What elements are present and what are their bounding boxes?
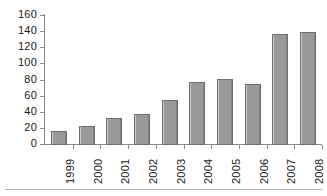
bar-chart: 020406080100120140160 199920002001200220…: [0, 0, 327, 196]
bar: [217, 79, 233, 145]
x-axis-tick-mark: [128, 145, 129, 149]
y-axis-tick-mark: [40, 15, 44, 16]
x-axis-tick-mark: [184, 145, 185, 149]
bar: [106, 118, 122, 145]
bar: [245, 84, 261, 145]
y-axis-tick-mark: [40, 80, 44, 81]
y-axis-tick-label: 0: [31, 137, 37, 150]
x-axis-tick-mark: [322, 145, 323, 149]
y-axis-tick-label: 20: [24, 121, 37, 134]
x-axis-tick-label: 2000: [92, 159, 104, 184]
bar: [272, 34, 288, 145]
x-axis-tick-label: 2006: [258, 159, 270, 184]
y-axis-tick-mark: [40, 144, 44, 145]
x-axis-tick-mark: [211, 145, 212, 149]
bar: [79, 126, 95, 145]
x-axis-tick-label: 2004: [202, 159, 214, 184]
bar-slot: [51, 15, 67, 145]
x-axis-label-group: 1999200020012002200320042005200620072008: [45, 150, 322, 186]
bar-slot: [245, 15, 261, 145]
y-axis-tick-label: 160: [18, 8, 37, 21]
bar: [51, 131, 67, 146]
bar: [300, 32, 316, 145]
x-axis-tick-label: 1999: [64, 159, 76, 184]
bar: [134, 114, 150, 145]
y-axis-tick-label: 40: [24, 105, 37, 118]
y-axis-tick-label: 80: [24, 73, 37, 86]
x-axis-tick-label: 2007: [285, 159, 297, 184]
bar-slot: [162, 15, 178, 145]
x-axis-tick-mark: [100, 145, 101, 149]
y-axis-tick-mark: [40, 63, 44, 64]
bar: [162, 100, 178, 145]
bar-slot: [79, 15, 95, 145]
x-axis-tick-label: 2001: [119, 159, 131, 184]
y-axis-tick-mark: [40, 47, 44, 48]
x-axis-tick-label: 2008: [313, 159, 325, 184]
bar-slot: [300, 15, 316, 145]
x-axis-tick-mark: [156, 145, 157, 149]
y-axis-tick-label: 60: [24, 89, 37, 102]
bar-slot: [272, 15, 288, 145]
bar: [189, 82, 205, 145]
y-axis-tick-mark: [40, 112, 44, 113]
x-axis-tick-label: 2005: [230, 159, 242, 184]
bar-slot: [106, 15, 122, 145]
y-axis-tick-mark: [40, 96, 44, 97]
y-axis-tick-label: 100: [18, 56, 37, 69]
x-axis-tick-label: 2002: [147, 159, 159, 184]
y-axis-tick-mark: [40, 128, 44, 129]
y-axis-tick-mark: [40, 31, 44, 32]
bar-series: [45, 15, 322, 145]
y-axis-tick-label: 140: [18, 24, 37, 37]
x-axis-tick-mark: [239, 145, 240, 149]
bar-slot: [189, 15, 205, 145]
y-axis-tick-label: 120: [18, 40, 37, 53]
bar-slot: [134, 15, 150, 145]
bottom-divider: [5, 189, 322, 190]
bar-slot: [217, 15, 233, 145]
x-axis-tick-mark: [294, 145, 295, 149]
x-axis-tick-mark: [73, 145, 74, 149]
x-axis-tick-mark: [267, 145, 268, 149]
x-axis-tick-label: 2003: [175, 159, 187, 184]
